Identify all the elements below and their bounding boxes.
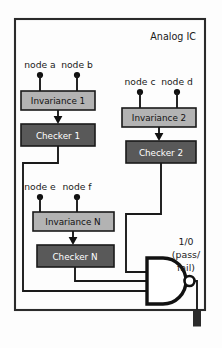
node-a-label: node a xyxy=(24,59,55,70)
output-label-line-2: (pass/ xyxy=(172,249,201,260)
output-pin xyxy=(194,310,201,326)
output-label-line-1: 1/0 xyxy=(178,236,193,247)
invariance-n-label: Invariance N xyxy=(45,217,100,227)
node-b-label: node b xyxy=(61,59,93,70)
checker-n-label: Checker N xyxy=(52,252,97,262)
node-c-label: node c xyxy=(125,76,156,87)
analog-ic-diagram: Analog IC node a node b Invariance 1 Che… xyxy=(0,0,222,348)
arrowhead-invariance-2-to-checker-2 xyxy=(155,133,164,141)
node-f-label: node f xyxy=(62,181,92,192)
checker-2-label: Checker 2 xyxy=(139,148,183,158)
invariance-2-label: Invariance 2 xyxy=(132,113,186,123)
checker-1-label: Checker 1 xyxy=(36,131,80,141)
invariance-1-label: Invariance 1 xyxy=(31,96,85,106)
node-d-label: node d xyxy=(161,76,193,87)
nand-gate-bubble xyxy=(185,276,195,286)
node-e-label: node e xyxy=(24,181,56,192)
arrowhead-invariance-n-to-checker-n xyxy=(69,237,78,245)
wire-checker-n-to-gate xyxy=(75,267,146,281)
output-label-line-3: fail) xyxy=(177,262,195,273)
analog-ic-title: Analog IC xyxy=(150,31,196,42)
diagram-canvas: Analog IC node a node b Invariance 1 Che… xyxy=(0,0,222,348)
wire-checker-2-to-gate xyxy=(126,163,161,272)
arrowhead-invariance-1-to-checker-1 xyxy=(54,116,63,124)
